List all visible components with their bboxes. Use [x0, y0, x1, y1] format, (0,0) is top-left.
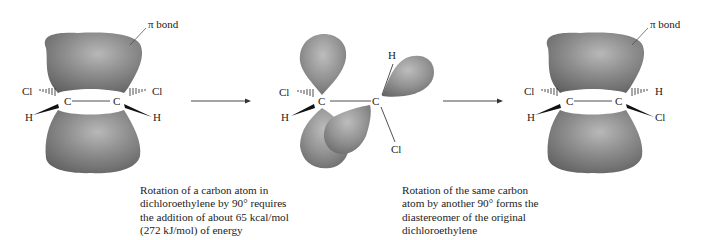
rotation-diagram: C C Cl H Cl H π bond C C Cl H — [0, 0, 708, 240]
p-orbital-top-left — [300, 34, 346, 95]
caption-rotation-90: Rotation of a carbon atom in dichloroeth… — [140, 184, 289, 237]
caption-line: the addition of about 65 kcal/mol — [140, 211, 289, 224]
caption-line: dichloroethylene — [402, 224, 539, 237]
caption-line: diastereomer of the original — [402, 211, 539, 224]
p-orbital-bottom-right — [324, 105, 371, 154]
atom-left-top: Cl — [524, 85, 534, 97]
atom-top-right: H — [388, 49, 396, 61]
planar-molecule-right: C C Cl H H Cl π bond — [524, 18, 681, 173]
planar-molecule-left: C C Cl H Cl H π bond — [22, 18, 179, 173]
p-orbital-top-right — [382, 56, 434, 97]
caption-line: atom by another 90° forms the — [402, 197, 539, 210]
atom-left-bottom: H — [25, 111, 33, 123]
atom-right-top: Cl — [152, 85, 162, 97]
pi-lobe-top — [45, 33, 142, 93]
reaction-arrow-1 — [191, 99, 251, 104]
pi-bond-label: π bond — [650, 18, 681, 30]
pi-lobe-bottom — [46, 110, 141, 173]
pi-bond-label: π bond — [148, 18, 179, 30]
caption-diastereomer: Rotation of the same carbon atom by anot… — [402, 184, 539, 237]
atom-right-top: H — [655, 85, 663, 97]
atom-c2: C — [113, 95, 120, 107]
atom-right-bottom: Cl — [655, 111, 665, 123]
atom-bottom-right: Cl — [391, 143, 401, 155]
pi-lobe-bottom — [548, 110, 643, 173]
caption-line: Rotation of a carbon atom in — [140, 184, 289, 197]
atom-left-top: Cl — [22, 85, 32, 97]
atom-left-top: Cl — [279, 86, 289, 98]
caption-line: (272 kJ/mol) of energy — [140, 224, 289, 237]
atom-c2: C — [615, 95, 622, 107]
atom-right-bottom: H — [153, 111, 161, 123]
atom-left-bottom: H — [281, 111, 289, 123]
pi-lobe-top — [547, 33, 644, 93]
atom-c1: C — [318, 95, 325, 107]
caption-line: Rotation of the same carbon — [402, 184, 539, 197]
twisted-molecule-middle: C C Cl H H Cl — [279, 34, 434, 168]
atom-left-bottom: H — [527, 111, 535, 123]
atom-c1: C — [64, 95, 71, 107]
caption-line: dichloroethylene by 90° requires — [140, 197, 289, 210]
reaction-arrow-2 — [443, 99, 503, 104]
atom-c2: C — [372, 95, 379, 107]
atom-c1: C — [566, 95, 573, 107]
